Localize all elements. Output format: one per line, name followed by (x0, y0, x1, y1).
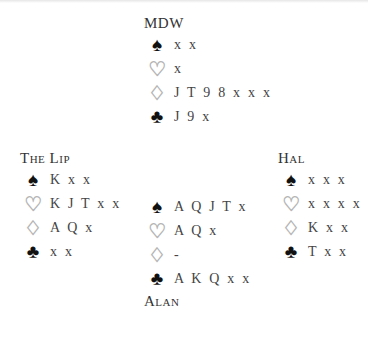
player-name-south: Alan (144, 291, 251, 311)
diamond-icon: ♢ (148, 245, 166, 265)
suit-line-diamonds: ♢ K x x (278, 216, 362, 240)
cards-spades: x x (174, 33, 198, 57)
diamond-icon: ♢ (282, 218, 300, 238)
suit-line-spades: ♠ K x x (20, 168, 121, 192)
cards-clubs: T x x (308, 240, 348, 264)
cards-hearts: x x x x (308, 192, 362, 216)
suit-line-hearts: ♡ A Q x (144, 219, 251, 243)
north-hand: MDW ♠ x x ♡ x ♢ J T 9 8 x x x ♣ J 9 x (144, 13, 272, 129)
suit-line-clubs: ♣ A K Q x x (144, 267, 251, 291)
cards-clubs: x x (50, 240, 74, 264)
suit-line-diamonds: ♢ J T 9 8 x x x (144, 81, 272, 105)
diamond-icon: ♢ (148, 83, 166, 103)
cards-clubs: A K Q x x (174, 267, 251, 291)
club-icon: ♣ (24, 242, 42, 262)
south-hand: ♠ A Q J T x ♡ A Q x ♢ - ♣ A K Q x x Alan (144, 195, 251, 311)
spade-icon: ♠ (148, 35, 166, 55)
spade-icon: ♠ (148, 197, 166, 217)
west-hand: The Lip ♠ K x x ♡ K J T x x ♢ A Q x ♣ x … (20, 148, 121, 264)
suit-line-clubs: ♣ J 9 x (144, 105, 272, 129)
suit-line-hearts: ♡ K J T x x (20, 192, 121, 216)
suit-line-diamonds: ♢ - (144, 243, 251, 267)
suit-line-hearts: ♡ x (144, 57, 272, 81)
suit-line-clubs: ♣ T x x (278, 240, 362, 264)
heart-icon: ♡ (148, 221, 166, 241)
player-name-north: MDW (144, 13, 272, 33)
cards-hearts: K J T x x (50, 192, 121, 216)
spade-icon: ♠ (24, 170, 42, 190)
heart-icon: ♡ (24, 194, 42, 214)
player-name-east: Hal (278, 148, 362, 168)
cards-hearts: A Q x (174, 219, 218, 243)
cards-diamonds: J T 9 8 x x x (174, 81, 272, 105)
east-hand: Hal ♠ x x x ♡ x x x x ♢ K x x ♣ T x x (278, 148, 362, 264)
club-icon: ♣ (148, 107, 166, 127)
suit-line-clubs: ♣ x x (20, 240, 121, 264)
cards-spades: A Q J T x (174, 195, 248, 219)
cards-diamonds: K x x (308, 216, 350, 240)
cards-diamonds: A Q x (50, 216, 94, 240)
suit-line-spades: ♠ A Q J T x (144, 195, 251, 219)
heart-icon: ♡ (148, 59, 166, 79)
cards-diamonds: - (174, 243, 181, 267)
club-icon: ♣ (148, 269, 166, 289)
cards-hearts: x (174, 57, 183, 81)
diamond-icon: ♢ (24, 218, 42, 238)
suit-line-diamonds: ♢ A Q x (20, 216, 121, 240)
heart-icon: ♡ (282, 194, 300, 214)
suit-line-spades: ♠ x x x (278, 168, 362, 192)
cards-clubs: J 9 x (174, 105, 211, 129)
suit-line-spades: ♠ x x (144, 33, 272, 57)
club-icon: ♣ (282, 242, 300, 262)
cards-spades: K x x (50, 168, 92, 192)
cards-spades: x x x (308, 168, 347, 192)
player-name-west: The Lip (20, 148, 121, 168)
spade-icon: ♠ (282, 170, 300, 190)
top-edge-fade (0, 0, 368, 3)
suit-line-hearts: ♡ x x x x (278, 192, 362, 216)
